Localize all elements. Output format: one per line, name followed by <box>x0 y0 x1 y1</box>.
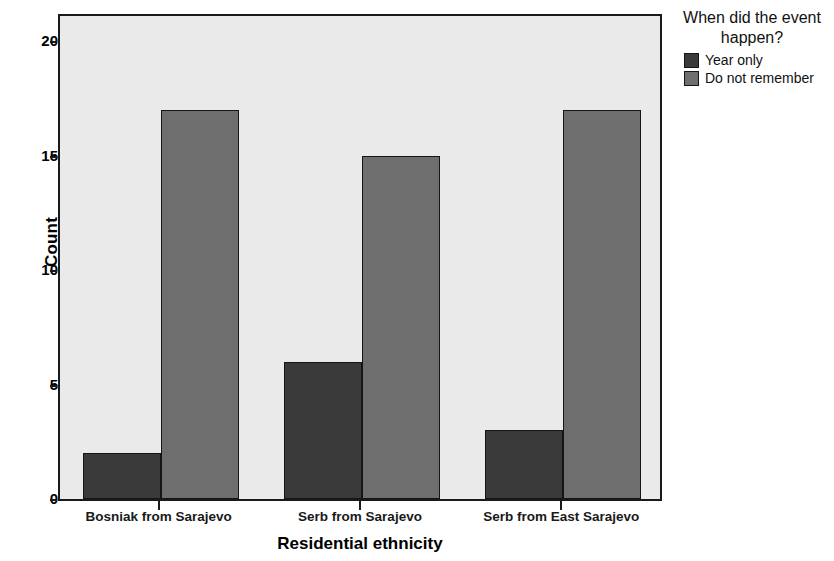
legend-title: When did the event happen? <box>672 8 832 48</box>
y-tick-mark <box>50 499 57 501</box>
bar <box>563 110 641 499</box>
bar <box>161 110 239 499</box>
legend-swatch-icon <box>684 53 699 68</box>
y-tick-mark <box>50 41 57 43</box>
bar <box>362 156 440 499</box>
x-category-label: Serb from East Sarajevo <box>451 509 671 524</box>
x-category-label: Bosniak from Sarajevo <box>49 509 269 524</box>
legend-items: Year onlyDo not remember <box>672 52 832 86</box>
legend: When did the event happen? Year onlyDo n… <box>672 8 832 88</box>
bar <box>284 362 362 499</box>
legend-title-line-2: happen? <box>672 28 832 48</box>
bars-layer <box>60 16 660 499</box>
bar <box>485 430 563 499</box>
plot-area <box>58 14 662 501</box>
legend-item[interactable]: Year only <box>684 52 832 68</box>
legend-swatch-icon <box>684 71 699 86</box>
y-tick-mark <box>50 156 57 158</box>
bar <box>83 453 161 499</box>
legend-label: Year only <box>705 52 763 68</box>
y-axis-ticks: 05101520 <box>16 0 58 561</box>
legend-title-line-1: When did the event <box>672 8 832 28</box>
legend-item[interactable]: Do not remember <box>684 70 832 86</box>
x-category-label: Serb from Sarajevo <box>250 509 470 524</box>
bar-chart: Count 05101520 Bosniak from SarajevoSerb… <box>0 0 834 561</box>
x-axis-title: Residential ethnicity <box>58 534 662 554</box>
y-tick-mark <box>50 385 57 387</box>
legend-label: Do not remember <box>705 70 814 86</box>
y-tick-mark <box>50 270 57 272</box>
